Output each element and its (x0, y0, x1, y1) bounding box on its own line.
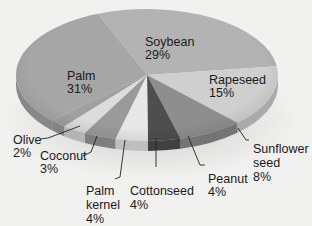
label-peanut: Peanut 4% (208, 173, 248, 199)
label-rapeseed: Rapeseed 15% (209, 74, 266, 100)
label-coconut: Coconut 3% (40, 150, 87, 176)
label-palm: Palm 31% (67, 70, 95, 96)
label-sunflower-seed: Sunflower seed 8% (253, 142, 309, 184)
label-cottonseed: Cottonseed 4% (130, 184, 194, 212)
label-olive: Olive 2% (13, 134, 41, 160)
label-palm-kernel: Palm kernel 4% (86, 184, 120, 226)
label-soybean: Soybean 29% (145, 36, 194, 62)
